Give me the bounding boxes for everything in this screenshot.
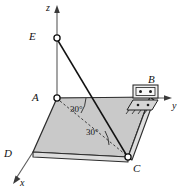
node-e: [54, 35, 60, 41]
point-label-a: A: [32, 92, 39, 103]
x-axis-label: x: [20, 178, 24, 188]
z-axis: [54, 5, 60, 98]
point-label-e: E: [29, 31, 36, 42]
point-label-c: C: [133, 163, 140, 174]
node-c: [125, 154, 131, 160]
z-axis-label: z: [46, 3, 50, 13]
statics-figure: z y x E A B C D 30° 30°: [0, 0, 187, 194]
angle-label-2: 30°: [86, 128, 99, 137]
y-axis-label: y: [172, 101, 176, 111]
angle-label-1: 30°: [70, 105, 83, 114]
point-label-d: D: [4, 148, 12, 159]
node-a: [54, 95, 60, 101]
point-label-b: B: [148, 74, 155, 85]
